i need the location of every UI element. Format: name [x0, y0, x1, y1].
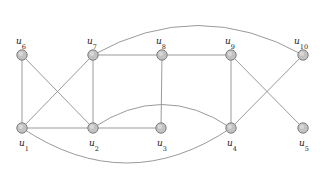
- graph-node-u4[interactable]: [226, 123, 236, 133]
- node-label-u10: u10: [294, 36, 308, 51]
- node-highlight-u8: [159, 52, 163, 56]
- graph-edge-u8-u3: [161, 55, 162, 128]
- node-label-u7: u7: [87, 36, 97, 51]
- graph-canvas: u1u2u3u4u5u6u7u8u9u10: [0, 0, 326, 178]
- node-label-u3: u3: [157, 138, 167, 153]
- graph-node-u5[interactable]: [298, 123, 308, 133]
- node-highlight-u2: [90, 125, 94, 129]
- node-label-u5: u5: [299, 138, 309, 153]
- node-highlight-u4: [228, 125, 232, 129]
- graph-node-u8[interactable]: [157, 50, 167, 60]
- graph-node-u10[interactable]: [298, 50, 308, 60]
- node-highlight-u9: [228, 52, 232, 56]
- graph-node-u6[interactable]: [17, 50, 27, 60]
- node-label-u9: u9: [225, 36, 235, 51]
- node-label-u6: u6: [16, 36, 26, 51]
- node-highlight-u7: [90, 52, 94, 56]
- node-label-u8: u8: [156, 36, 166, 51]
- node-highlight-u5: [300, 125, 304, 129]
- graph-node-u9[interactable]: [226, 50, 236, 60]
- graph-node-u7[interactable]: [88, 50, 98, 60]
- graph-node-u2[interactable]: [88, 123, 98, 133]
- node-highlight-u10: [300, 52, 304, 56]
- node-highlight-u3: [158, 125, 162, 129]
- node-label-u4: u4: [227, 138, 237, 153]
- graph-figure: u1u2u3u4u5u6u7u8u9u10: [0, 0, 326, 178]
- graph-edge-u7-u10: [93, 26, 303, 56]
- node-label-u1: u1: [19, 138, 29, 153]
- node-label-u2: u2: [89, 138, 99, 153]
- graph-node-u3[interactable]: [156, 123, 166, 133]
- node-highlight-u1: [19, 125, 23, 129]
- nodes-layer: [17, 50, 308, 133]
- node-highlight-u6: [19, 52, 23, 56]
- graph-edge-u1-u4: [22, 128, 231, 163]
- graph-node-u1[interactable]: [17, 123, 27, 133]
